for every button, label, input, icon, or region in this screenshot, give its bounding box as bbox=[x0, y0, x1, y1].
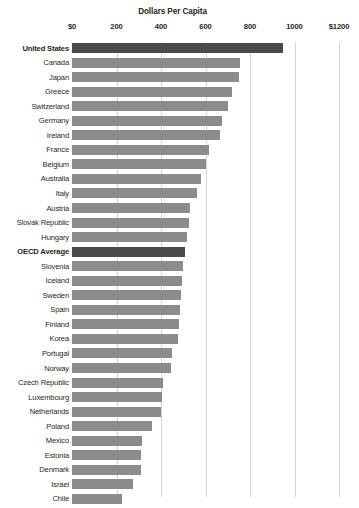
bar-spain[interactable] bbox=[72, 305, 180, 315]
bar-row[interactable]: Belgium bbox=[0, 158, 359, 173]
bar-row[interactable]: Netherlands bbox=[0, 406, 359, 421]
category-label-czech-republic: Czech Republic bbox=[0, 378, 69, 387]
x-tick-label-800: 800 bbox=[244, 22, 256, 31]
bar-row[interactable]: Denmark bbox=[0, 464, 359, 479]
bar-row[interactable]: Canada bbox=[0, 57, 359, 72]
bar-row[interactable]: Estonia bbox=[0, 449, 359, 464]
category-label-netherlands: Netherlands bbox=[0, 407, 69, 416]
x-tick-label-1000: 1000 bbox=[286, 22, 303, 31]
category-label-italy: Italy bbox=[0, 189, 69, 198]
category-label-denmark: Denmark bbox=[0, 465, 69, 474]
bar-chile[interactable] bbox=[72, 494, 122, 504]
bar-australia[interactable] bbox=[72, 174, 201, 184]
bar-hungary[interactable] bbox=[72, 232, 187, 242]
bar-row[interactable]: Mexico bbox=[0, 435, 359, 450]
category-label-slovak-republic: Slovak Republic bbox=[0, 218, 69, 227]
category-label-finland: Finland bbox=[0, 320, 69, 329]
bar-sweden[interactable] bbox=[72, 290, 181, 300]
category-label-sweden: Sweden bbox=[0, 291, 69, 300]
bar-slovak-republic[interactable] bbox=[72, 218, 189, 228]
bar-row[interactable]: Czech Republic bbox=[0, 377, 359, 392]
bar-row[interactable]: Australia bbox=[0, 173, 359, 188]
category-label-greece: Greece bbox=[0, 87, 69, 96]
bar-canada[interactable] bbox=[72, 58, 240, 68]
bar-norway[interactable] bbox=[72, 363, 171, 373]
bar-iceland[interactable] bbox=[72, 276, 182, 286]
category-label-slovenia: Slovenia bbox=[0, 262, 69, 271]
bar-denmark[interactable] bbox=[72, 465, 141, 475]
bar-row[interactable]: Poland bbox=[0, 420, 359, 435]
bar-germany[interactable] bbox=[72, 116, 222, 126]
bar-row[interactable]: Slovenia bbox=[0, 260, 359, 275]
x-tick-label-400: 400 bbox=[155, 22, 167, 31]
bar-greece[interactable] bbox=[72, 87, 232, 97]
bar-row[interactable]: Hungary bbox=[0, 231, 359, 246]
bar-united-states[interactable] bbox=[72, 43, 283, 53]
bar-austria[interactable] bbox=[72, 203, 190, 213]
category-label-oecd-average: OECD Average bbox=[0, 247, 69, 256]
bar-israel[interactable] bbox=[72, 479, 133, 489]
category-label-iceland: Iceland bbox=[0, 276, 69, 285]
category-label-chile: Chile bbox=[0, 494, 69, 503]
bar-japan[interactable] bbox=[72, 72, 239, 82]
x-tick-label-0: $0 bbox=[68, 22, 76, 31]
bar-portugal[interactable] bbox=[72, 348, 172, 358]
x-tick-label-1200: $1200 bbox=[329, 22, 350, 31]
bar-slovenia[interactable] bbox=[72, 261, 183, 271]
bar-row[interactable]: Korea bbox=[0, 333, 359, 348]
bar-france[interactable] bbox=[72, 145, 209, 155]
category-label-belgium: Belgium bbox=[0, 160, 69, 169]
category-label-norway: Norway bbox=[0, 364, 69, 373]
bar-row[interactable]: Chile bbox=[0, 493, 359, 508]
category-label-germany: Germany bbox=[0, 116, 69, 125]
category-label-united-states: United States bbox=[0, 44, 69, 53]
bar-row[interactable]: France bbox=[0, 144, 359, 159]
bar-row[interactable]: United States bbox=[0, 42, 359, 57]
bar-row[interactable]: Germany bbox=[0, 115, 359, 130]
bar-row[interactable]: Norway bbox=[0, 362, 359, 377]
category-label-hungary: Hungary bbox=[0, 233, 69, 242]
bar-row[interactable]: Finland bbox=[0, 318, 359, 333]
category-label-luxembourg: Luxembourg bbox=[0, 393, 69, 402]
bar-ireland[interactable] bbox=[72, 130, 220, 140]
bar-finland[interactable] bbox=[72, 319, 179, 329]
bar-row[interactable]: Sweden bbox=[0, 289, 359, 304]
category-label-japan: Japan bbox=[0, 73, 69, 82]
bar-italy[interactable] bbox=[72, 188, 197, 198]
category-label-australia: Australia bbox=[0, 174, 69, 183]
bar-row[interactable]: OECD Average bbox=[0, 246, 359, 261]
category-label-mexico: Mexico bbox=[0, 436, 69, 445]
bar-row[interactable]: Spain bbox=[0, 304, 359, 319]
bar-row[interactable]: Japan bbox=[0, 71, 359, 86]
category-label-israel: Israel bbox=[0, 480, 69, 489]
bar-korea[interactable] bbox=[72, 334, 178, 344]
bar-czech-republic[interactable] bbox=[72, 378, 163, 388]
bar-oecd-average[interactable] bbox=[72, 247, 185, 257]
bar-row[interactable]: Iceland bbox=[0, 275, 359, 290]
bar-row[interactable]: Slovak Republic bbox=[0, 217, 359, 232]
category-label-korea: Korea bbox=[0, 334, 69, 343]
category-label-switzerland: Switzerland bbox=[0, 102, 69, 111]
x-tick-label-200: 200 bbox=[110, 22, 122, 31]
bar-poland[interactable] bbox=[72, 421, 152, 431]
bar-netherlands[interactable] bbox=[72, 407, 161, 417]
bar-row[interactable]: Portugal bbox=[0, 347, 359, 362]
bar-row[interactable]: Luxembourg bbox=[0, 391, 359, 406]
bar-luxembourg[interactable] bbox=[72, 392, 162, 402]
bar-row[interactable]: Israel bbox=[0, 478, 359, 493]
bar-estonia[interactable] bbox=[72, 450, 141, 460]
bar-row[interactable]: Italy bbox=[0, 187, 359, 202]
category-label-estonia: Estonia bbox=[0, 451, 69, 460]
bar-row[interactable]: Ireland bbox=[0, 129, 359, 144]
bar-rows: United StatesCanadaJapanGreeceSwitzerlan… bbox=[0, 42, 359, 508]
bar-row[interactable]: Switzerland bbox=[0, 100, 359, 115]
bar-row[interactable]: Austria bbox=[0, 202, 359, 217]
bar-switzerland[interactable] bbox=[72, 101, 228, 111]
category-label-poland: Poland bbox=[0, 422, 69, 431]
chart-title: Dollars Per Capita bbox=[0, 7, 352, 16]
category-label-canada: Canada bbox=[0, 58, 69, 67]
bar-mexico[interactable] bbox=[72, 436, 142, 446]
bar-belgium[interactable] bbox=[72, 159, 206, 169]
bar-row[interactable]: Greece bbox=[0, 86, 359, 101]
